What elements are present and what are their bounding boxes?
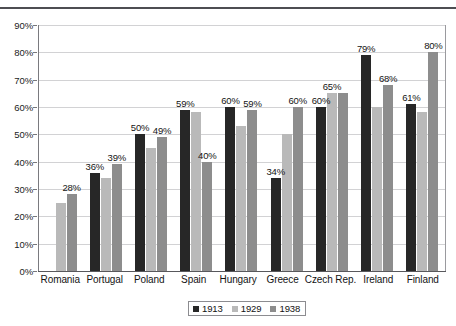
bar-1913[interactable] bbox=[316, 107, 326, 271]
bar-value-label: 65% bbox=[323, 81, 341, 92]
bar-chart: 0%10%20%30%40%50%60%70%80%90% 28%36%39%5… bbox=[0, 12, 456, 297]
legend-label: 1938 bbox=[279, 304, 300, 314]
bar-1938[interactable] bbox=[202, 162, 212, 271]
y-tick-label: 30% bbox=[14, 184, 33, 195]
y-axis-labels: 0%10%20%30%40%50%60%70%80%90% bbox=[0, 25, 33, 272]
bar-group bbox=[264, 25, 309, 272]
y-tick-mark bbox=[33, 162, 37, 163]
legend-swatch-icon bbox=[270, 306, 276, 312]
chart-legend: 191319291938 bbox=[188, 301, 306, 316]
bar-value-label: 34% bbox=[266, 166, 284, 177]
y-tick-mark bbox=[33, 107, 37, 108]
bar-1913[interactable] bbox=[406, 104, 416, 271]
plot-right-border bbox=[445, 25, 446, 272]
x-axis-label: Poland bbox=[127, 274, 171, 292]
bar-value-label: 60% bbox=[288, 95, 306, 106]
x-axis-label: Portugal bbox=[82, 274, 126, 292]
bar-1929[interactable] bbox=[372, 107, 382, 271]
y-tick-mark bbox=[33, 52, 37, 53]
bar-1929[interactable] bbox=[282, 134, 292, 271]
bar-group-bars bbox=[264, 24, 309, 271]
bar-group-bars bbox=[128, 24, 173, 271]
y-tick-label: 50% bbox=[14, 129, 33, 140]
bar-1938[interactable] bbox=[338, 93, 348, 271]
bar-value-label: 60% bbox=[221, 95, 239, 106]
bar-group bbox=[219, 25, 264, 272]
x-axis-label: Hungary bbox=[216, 274, 260, 292]
bar-1938[interactable] bbox=[428, 52, 438, 271]
bar-group-bars bbox=[309, 24, 354, 271]
bar-group bbox=[400, 25, 445, 272]
x-axis-label: Greece bbox=[260, 274, 304, 292]
y-tick-mark bbox=[33, 189, 37, 190]
bar-group bbox=[174, 25, 219, 272]
bar-1913[interactable] bbox=[90, 173, 100, 271]
bar-1913[interactable] bbox=[180, 110, 190, 271]
bar-value-label: 68% bbox=[379, 73, 397, 84]
x-axis-label: Spain bbox=[171, 274, 215, 292]
bar-group-bars bbox=[174, 24, 219, 271]
bar-1929[interactable] bbox=[236, 126, 246, 271]
x-axis-label: Romania bbox=[38, 274, 82, 292]
legend-swatch-icon bbox=[232, 306, 238, 312]
bar-value-label: 80% bbox=[424, 40, 442, 51]
bar-value-label: 79% bbox=[357, 43, 375, 54]
bar-1929[interactable] bbox=[146, 148, 156, 271]
x-axis-label: Finland bbox=[401, 274, 445, 292]
bar-groups: 28%36%39%50%49%59%40%60%59%34%60%60%65%7… bbox=[38, 25, 445, 272]
legend-label: 1913 bbox=[202, 304, 223, 314]
bar-value-label: 36% bbox=[86, 161, 104, 172]
y-tick-label: 20% bbox=[14, 211, 33, 222]
x-axis-label: Czech Rep. bbox=[305, 274, 356, 292]
y-tick-mark bbox=[33, 216, 37, 217]
bar-group bbox=[309, 25, 354, 272]
bar-1938[interactable] bbox=[157, 137, 167, 271]
bar-1938[interactable] bbox=[293, 107, 303, 271]
bar-group-bars bbox=[219, 24, 264, 271]
bar-1938[interactable] bbox=[383, 85, 393, 271]
x-axis-label: Ireland bbox=[356, 274, 400, 292]
bar-1913[interactable] bbox=[225, 107, 235, 271]
bar-1938[interactable] bbox=[247, 110, 257, 271]
bar-1913[interactable] bbox=[135, 134, 145, 271]
y-tick-label: 10% bbox=[14, 238, 33, 249]
legend-item-1913[interactable]: 1913 bbox=[193, 304, 223, 314]
legend-swatch-icon bbox=[193, 306, 199, 312]
bar-1929[interactable] bbox=[101, 178, 111, 271]
bar-1938[interactable] bbox=[67, 194, 77, 271]
bar-1929[interactable] bbox=[56, 203, 66, 271]
y-tick-mark bbox=[33, 80, 37, 81]
bar-1929[interactable] bbox=[327, 93, 337, 271]
legend-item-1938[interactable]: 1938 bbox=[270, 304, 300, 314]
bar-value-label: 40% bbox=[198, 150, 216, 161]
bar-1913[interactable] bbox=[361, 55, 371, 271]
y-tick-label: 80% bbox=[14, 47, 33, 58]
bar-value-label: 61% bbox=[402, 92, 420, 103]
bar-group bbox=[38, 25, 83, 272]
y-tick-label: 70% bbox=[14, 74, 33, 85]
y-tick-mark bbox=[33, 25, 37, 26]
bar-group-bars bbox=[400, 24, 445, 271]
y-tick-label: 40% bbox=[14, 156, 33, 167]
legend-label: 1929 bbox=[241, 304, 262, 314]
legend-item-1929[interactable]: 1929 bbox=[232, 304, 262, 314]
bar-group bbox=[355, 25, 400, 272]
bar-group-bars bbox=[83, 24, 128, 271]
top-divider-rule bbox=[0, 7, 456, 9]
bar-1913[interactable] bbox=[271, 178, 281, 271]
bar-1929[interactable] bbox=[191, 112, 201, 271]
bar-1929[interactable] bbox=[417, 112, 427, 271]
bar-value-label: 59% bbox=[176, 98, 194, 109]
y-tick-mark bbox=[33, 271, 37, 272]
y-tick-label: 60% bbox=[14, 102, 33, 113]
y-tick-label: 90% bbox=[14, 20, 33, 31]
y-tick-mark bbox=[33, 244, 37, 245]
bar-group bbox=[83, 25, 128, 272]
y-tick-mark bbox=[33, 134, 37, 135]
bar-group-bars bbox=[38, 24, 83, 271]
bar-group-bars bbox=[355, 24, 400, 271]
bar-value-label: 49% bbox=[153, 125, 171, 136]
bar-value-label: 60% bbox=[312, 95, 330, 106]
bar-value-label: 28% bbox=[62, 182, 80, 193]
bar-1938[interactable] bbox=[112, 164, 122, 271]
